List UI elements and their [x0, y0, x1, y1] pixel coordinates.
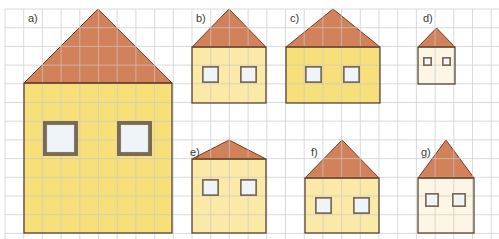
roof — [418, 28, 455, 47]
window-glass — [425, 59, 430, 64]
window-glass — [204, 181, 217, 194]
house-label: c) — [290, 13, 299, 24]
house-label: g) — [421, 147, 431, 158]
window-glass — [427, 195, 437, 205]
house-label: f) — [311, 147, 318, 158]
house-label: e) — [190, 147, 200, 158]
window-glass — [47, 125, 74, 152]
house-grid-figure: a)b)c)d)e)f)g) — [0, 0, 499, 239]
window-glass — [345, 68, 358, 81]
window-glass — [454, 195, 464, 205]
house-label: a) — [28, 13, 38, 24]
grid-canvas — [0, 0, 499, 239]
window-glass — [121, 125, 148, 152]
window-glass — [444, 59, 449, 64]
window-glass — [242, 181, 255, 194]
wall — [24, 83, 172, 233]
wall — [286, 47, 380, 103]
house-label: b) — [196, 13, 206, 24]
window-glass — [307, 68, 320, 81]
window-glass — [242, 68, 255, 81]
house-label: d) — [423, 13, 433, 24]
window-glass — [355, 199, 368, 212]
window-glass — [204, 68, 217, 81]
window-glass — [317, 199, 330, 212]
house-d — [418, 28, 455, 84]
house-c — [286, 9, 380, 103]
